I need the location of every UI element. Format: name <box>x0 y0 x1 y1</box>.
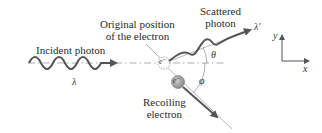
original-position-leader <box>146 44 160 58</box>
recoiling-electron-label: Recoiling electron <box>143 96 186 120</box>
x-axis-label: x <box>303 63 307 74</box>
lambda-prime-label: λ′ <box>254 21 261 32</box>
original-position-line2: of the electron <box>100 30 175 42</box>
original-position-label: Original position of the electron <box>100 18 175 42</box>
recoil-electron-symbol: e⁻ <box>173 76 181 85</box>
recoiling-line1: Recoiling <box>143 96 186 108</box>
original-position-line1: Original position <box>100 18 175 30</box>
incident-photon-label: Incident photon <box>36 44 105 56</box>
recoiling-line2: electron <box>143 108 186 120</box>
scattered-line1: Scattered <box>200 5 241 17</box>
recoil-electron-arrow <box>183 87 217 117</box>
theta-arc <box>203 47 207 63</box>
original-electron-symbol: e⁻ <box>159 57 167 66</box>
phi-label: φ <box>199 75 205 86</box>
scattered-photon-label: Scattered photon <box>200 5 241 29</box>
y-axis-label: y <box>273 30 277 41</box>
theta-label: θ <box>211 49 216 60</box>
scattered-line2: photon <box>200 17 241 29</box>
lambda-label: λ <box>72 76 76 87</box>
